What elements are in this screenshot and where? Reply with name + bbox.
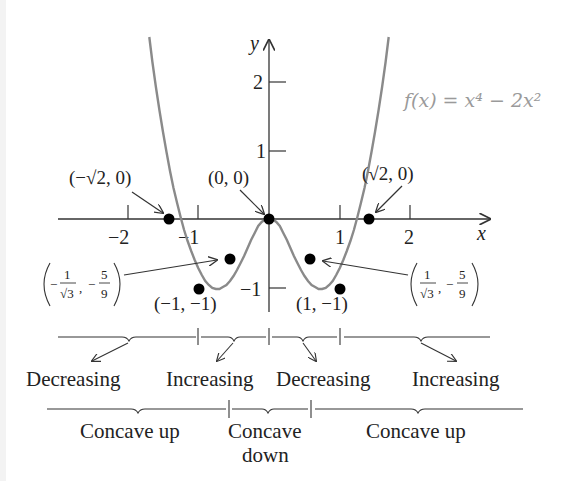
point-origin <box>264 214 275 225</box>
monotonicity-braces <box>58 328 490 345</box>
label-zero-right: (√2, 0) <box>362 163 414 185</box>
label-min-left: (−1, −1) <box>154 293 217 315</box>
label-decreasing-2: Decreasing <box>276 367 371 391</box>
point-zero-left <box>164 214 175 225</box>
label-concave-down-line1: Concave <box>228 419 301 443</box>
svg-text:−: − <box>50 277 57 292</box>
y-tick-1: 1 <box>256 140 266 162</box>
x-tick-1: 1 <box>335 226 345 248</box>
svg-text:1: 1 <box>424 267 431 282</box>
label-concave-up-1: Concave up <box>80 419 180 443</box>
point-inflection-left <box>225 254 236 265</box>
label-inflection-right: 1 √3 , − 5 9 <box>411 263 478 306</box>
graph-diagram: −2 −1 1 2 2 1 −1 x y f(x) = x⁴ − 2x² (−√… <box>0 0 565 481</box>
y-tick-neg1: −1 <box>240 278 261 300</box>
label-increasing-1: Increasing <box>166 367 254 391</box>
label-decreasing-1: Decreasing <box>26 367 121 391</box>
x-axis-label: x <box>476 222 486 244</box>
y-axis-label: y <box>248 32 259 55</box>
label-inflection-left: − 1 √3 , − 5 9 <box>44 263 120 306</box>
label-origin: (0, 0) <box>208 167 249 189</box>
svg-text:−: − <box>88 277 95 292</box>
svg-text:−: − <box>446 277 453 292</box>
x-tick-neg2: −2 <box>108 226 129 248</box>
function-label: f(x) = x⁴ − 2x² <box>402 89 541 111</box>
label-zero-left: (−√2, 0) <box>69 167 131 189</box>
label-concave-up-2: Concave up <box>366 419 466 443</box>
svg-text:√3: √3 <box>60 286 74 301</box>
point-inflection-right <box>305 254 316 265</box>
svg-text:√3: √3 <box>420 286 434 301</box>
point-zero-right <box>364 214 375 225</box>
svg-text:5: 5 <box>101 267 108 282</box>
label-min-right: (1, −1) <box>296 293 348 315</box>
label-concave-down-line2: down <box>242 443 289 467</box>
svg-text:9: 9 <box>101 286 108 301</box>
label-increasing-2: Increasing <box>412 367 500 391</box>
y-tick-2: 2 <box>253 71 263 93</box>
svg-text:1: 1 <box>64 267 71 282</box>
svg-text:5: 5 <box>459 267 466 282</box>
x-tick-2: 2 <box>404 226 414 248</box>
svg-text:9: 9 <box>459 286 466 301</box>
svg-text:,: , <box>79 280 82 295</box>
svg-text:,: , <box>438 280 441 295</box>
concavity-braces <box>47 400 523 418</box>
